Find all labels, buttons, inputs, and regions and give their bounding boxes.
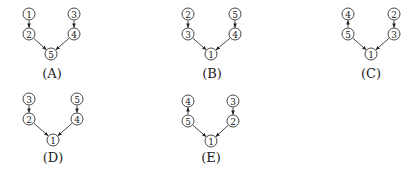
node-number: 4 xyxy=(71,30,77,40)
node-number: 2 xyxy=(230,117,236,127)
node-5: 5 xyxy=(182,115,194,127)
node-number: 5 xyxy=(185,117,191,127)
node-1: 1 xyxy=(205,135,217,147)
node-number: 1 xyxy=(208,137,214,147)
node-number: 1 xyxy=(26,10,32,20)
node-1: 1 xyxy=(205,48,217,60)
arrow-edge xyxy=(353,38,366,49)
node-number: 1 xyxy=(368,50,374,60)
node-number: 2 xyxy=(391,10,397,20)
node-1: 1 xyxy=(47,134,59,146)
diagram-b: 25341(B) xyxy=(182,8,241,81)
node-5: 5 xyxy=(45,48,57,60)
node-number: 5 xyxy=(48,50,54,60)
node-3: 3 xyxy=(227,95,239,107)
node-3: 3 xyxy=(182,28,194,40)
node-5: 5 xyxy=(342,28,354,40)
arrow-edge xyxy=(193,38,206,49)
node-5: 5 xyxy=(71,93,83,105)
node-number: 3 xyxy=(185,30,191,40)
arrow-edge xyxy=(58,123,72,135)
diagram-e: 43521(E) xyxy=(182,95,239,165)
node-number: 1 xyxy=(208,50,214,60)
node-number: 2 xyxy=(26,30,32,40)
arrow-edge xyxy=(376,38,389,49)
diagrams-root: 13245(A)25341(B)42531(C)35241(D)43521(E) xyxy=(23,8,400,165)
node-number: 5 xyxy=(232,10,238,20)
node-number: 4 xyxy=(232,30,238,40)
node-2: 2 xyxy=(182,8,194,20)
diagram-label: (E) xyxy=(201,150,221,165)
node-number: 4 xyxy=(185,97,191,107)
diagram-label: (B) xyxy=(202,66,222,81)
node-4: 4 xyxy=(342,8,354,20)
node-2: 2 xyxy=(388,8,400,20)
arrow-edge xyxy=(34,123,48,135)
node-3: 3 xyxy=(388,28,400,40)
node-1: 1 xyxy=(365,48,377,60)
node-number: 3 xyxy=(26,95,32,105)
node-2: 2 xyxy=(23,28,35,40)
arrow-edge xyxy=(216,125,228,136)
node-1: 1 xyxy=(23,8,35,20)
node-number: 5 xyxy=(345,30,351,40)
arrow-edge xyxy=(56,38,69,49)
node-3: 3 xyxy=(23,93,35,105)
node-number: 3 xyxy=(230,97,236,107)
node-number: 3 xyxy=(71,10,77,20)
arrow-edge xyxy=(34,38,46,49)
arrow-edge xyxy=(216,38,230,50)
diagram-canvas: 13245(A)25341(B)42531(C)35241(D)43521(E) xyxy=(0,0,416,175)
node-number: 2 xyxy=(26,115,32,125)
diagram-d: 35241(D) xyxy=(23,93,83,165)
arrow-edge xyxy=(193,125,206,136)
diagram-a: 13245(A) xyxy=(23,8,80,81)
diagram-label: (C) xyxy=(361,66,381,81)
node-number: 4 xyxy=(345,10,351,20)
node-3: 3 xyxy=(68,8,80,20)
node-number: 4 xyxy=(74,115,80,125)
node-4: 4 xyxy=(229,28,241,40)
node-4: 4 xyxy=(182,95,194,107)
diagram-c: 42531(C) xyxy=(342,8,400,81)
node-number: 2 xyxy=(185,10,191,20)
diagram-label: (D) xyxy=(43,150,64,165)
node-4: 4 xyxy=(71,113,83,125)
node-2: 2 xyxy=(227,115,239,127)
node-4: 4 xyxy=(68,28,80,40)
node-number: 5 xyxy=(74,95,80,105)
node-2: 2 xyxy=(23,113,35,125)
diagram-label: (A) xyxy=(42,66,62,81)
node-5: 5 xyxy=(229,8,241,20)
node-number: 3 xyxy=(391,30,397,40)
node-number: 1 xyxy=(50,136,56,146)
